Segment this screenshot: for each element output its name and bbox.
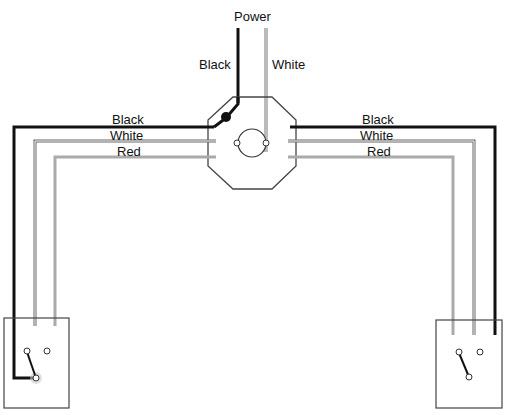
left-black-label: Black — [112, 113, 144, 126]
fixture-terminal-left — [234, 140, 240, 146]
wire-nut-splice — [221, 112, 231, 122]
left-red-wire — [55, 157, 205, 326]
right-red-label: Red — [367, 145, 391, 158]
right-switch-box — [436, 320, 502, 408]
wiring-diagram — [0, 0, 509, 415]
power-label: Power — [234, 10, 271, 23]
fixture-terminal-right — [263, 140, 269, 146]
right-red-wire — [288, 157, 453, 335]
feed-black-label: Black — [199, 58, 231, 71]
light-fixture — [238, 129, 266, 157]
left-white-wire — [35, 141, 205, 326]
left-red-label: Red — [117, 145, 141, 158]
left-white-label: White — [110, 129, 143, 142]
left-black-wire — [14, 127, 214, 378]
right-white-wire — [288, 141, 474, 335]
right-switch-toggle — [459, 353, 469, 377]
right-white-label: White — [360, 129, 393, 142]
feed-white-label: White — [272, 58, 305, 71]
right-black-label: Black — [362, 113, 394, 126]
